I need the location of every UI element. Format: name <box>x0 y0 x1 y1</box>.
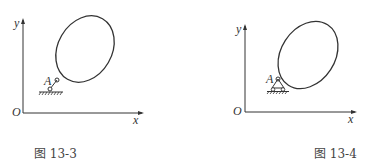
origin-label: O <box>12 105 21 120</box>
x-axis-arrow-icon <box>138 111 144 115</box>
roller-wheel-icon <box>281 88 285 92</box>
diagram-13-3 <box>0 0 186 167</box>
y-axis-label: y <box>14 16 19 31</box>
x-axis-label: x <box>133 113 138 128</box>
figure-caption: 图 13-3 <box>34 144 77 161</box>
point-a-label: A <box>44 74 51 89</box>
point-a-label: A <box>266 72 273 87</box>
figure-13-3: y x O A 图 13-3 <box>0 0 186 167</box>
x-axis-label: x <box>348 112 353 127</box>
origin-label: O <box>233 104 242 119</box>
y-axis-arrow-icon <box>21 18 25 24</box>
figure-caption: 图 13-4 <box>314 144 357 161</box>
roller-wheel-icon <box>271 88 275 92</box>
diagram-13-4 <box>185 0 371 167</box>
figure-13-4: y x O A 图 13-4 <box>185 0 371 167</box>
rigid-body-ellipse <box>266 10 351 100</box>
y-axis-arrow-icon <box>243 24 247 30</box>
y-axis-label: y <box>236 22 241 37</box>
